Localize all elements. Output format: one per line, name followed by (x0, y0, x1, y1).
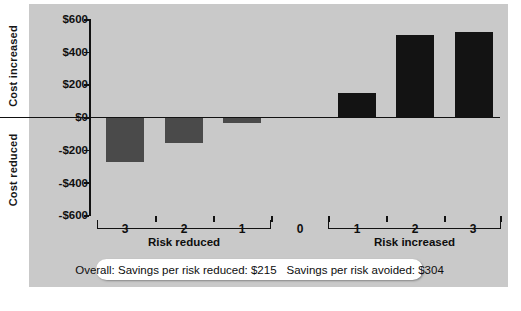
y-tick-label-neg400: -$400 (32, 177, 88, 189)
group-label-risk-increased: Risk increased (328, 236, 501, 248)
plot-area: 3 2 1 0 1 2 3 Risk reduced Risk increase… (89, 0, 501, 287)
y-tick-label-neg200: -$200 (32, 144, 88, 156)
y-tick-label-600: $600 (32, 13, 88, 25)
bar-risk-increased-2 (396, 35, 434, 117)
bar-risk-increased-3 (455, 32, 493, 117)
bar-risk-reduced-1 (223, 118, 261, 123)
y-axis-title-cost-increased: Cost increased (0, 18, 26, 114)
chart-figure: Cost increased Cost reduced $600 $400 $2… (0, 0, 521, 311)
caption-savings-avoided: Savings per risk avoided: $304 (287, 264, 444, 276)
y-axis-title-cost-reduced-text: Cost reduced (7, 134, 19, 207)
y-axis-title-cost-increased-text: Cost increased (7, 25, 19, 107)
y-tick-mark-neg600 (84, 215, 89, 217)
summary-caption: Overall: Savings per risk reduced: $215 … (96, 259, 423, 280)
group-bracket-risk-reduced (97, 220, 271, 229)
y-tick-mark-600 (84, 19, 89, 21)
bar-risk-increased-1 (338, 93, 376, 118)
y-tick-label-200: $200 (32, 78, 88, 90)
bar-risk-reduced-2 (165, 118, 203, 143)
group-label-risk-reduced: Risk reduced (97, 236, 271, 248)
y-axis-tick-labels: $600 $400 $200 $0 -$200 -$400 -$600 (30, 0, 88, 283)
y-tick-label-400: $400 (32, 46, 88, 58)
y-tick-mark-0 (84, 117, 89, 119)
caption-savings-reduced: Overall: Savings per risk reduced: $215 (75, 264, 276, 276)
y-tick-mark-200 (84, 84, 89, 86)
y-axis-title-cost-reduced: Cost reduced (0, 122, 26, 218)
bar-risk-reduced-3 (106, 118, 144, 162)
y-tick-mark-400 (84, 52, 89, 54)
group-bracket-risk-increased (328, 220, 501, 229)
y-tick-mark-neg200 (84, 150, 89, 152)
source-note (355, 297, 515, 306)
y-tick-mark-neg400 (84, 182, 89, 184)
y-tick-label-neg600: -$600 (32, 209, 88, 221)
x-tick-mark-3 (271, 216, 273, 222)
x-category-label-zero: 0 (288, 222, 312, 236)
